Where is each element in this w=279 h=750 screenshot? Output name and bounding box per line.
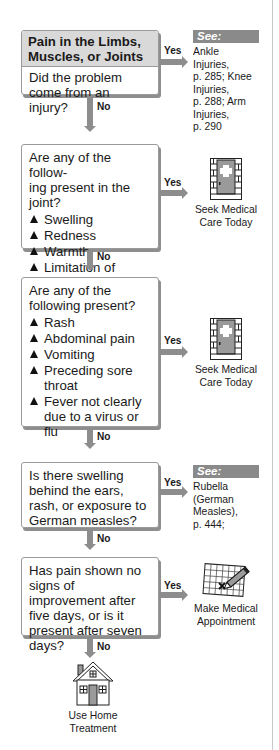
no-connector-4 (87, 529, 93, 545)
triangle-bullet-icon (30, 334, 38, 342)
triangle-bullet-icon (30, 350, 38, 358)
calendar-pencil-icon (200, 561, 252, 599)
no-connector-3 (87, 428, 93, 444)
see-tag: See: (193, 465, 259, 478)
question-line: Are any of the follow- (29, 150, 151, 180)
see-line: Injuries, (193, 83, 249, 96)
triangle-bullet-icon (30, 366, 38, 374)
see-line: p. 444; (193, 518, 249, 531)
see-line: Injuries, (193, 108, 249, 121)
question-text: Is there swelling behind the ears, rash,… (29, 468, 151, 528)
yes-label-2: Yes (164, 176, 181, 188)
symptom-item: Abdominal pain (29, 331, 151, 346)
no-connector-2 (87, 250, 93, 266)
outcome-caption: Treatment (62, 722, 125, 735)
outcome-caption: Use Home (62, 709, 125, 722)
question-box-other-symptoms: Are any of the following present? Rash A… (21, 277, 159, 427)
outcome-caption: Seek Medical (192, 363, 260, 376)
symptom-item: Rash (29, 315, 151, 330)
yes-connector-2 (159, 190, 183, 196)
see-tag: See: (193, 30, 259, 43)
outcome-home-treatment: Use Home Treatment (58, 660, 128, 735)
no-label-2: No (97, 250, 111, 262)
question-line: ing present in the joint? (29, 180, 151, 210)
yes-label-5: Yes (164, 579, 181, 591)
see-line: (German (193, 493, 249, 506)
no-connector-1 (87, 96, 93, 127)
no-label-1: No (97, 100, 111, 112)
outcome-caption: Appointment (190, 615, 262, 628)
yes-connector-4 (159, 489, 183, 495)
see-line: p. 290 (193, 120, 249, 133)
symptom-item: Redness (29, 228, 151, 243)
question-line: following present? (29, 298, 151, 313)
triangle-bullet-icon (30, 231, 38, 239)
outcome-make-appointment: Make Medical Appointment (186, 561, 266, 628)
triangle-bullet-icon (30, 215, 38, 223)
symptom-item: Swelling (29, 212, 151, 227)
symptom-item: Vomiting (29, 347, 151, 362)
outcome-caption: Care Today (192, 216, 260, 229)
no-label-3: No (97, 430, 111, 442)
see-link-knee[interactable]: p. 285; Knee (193, 70, 249, 83)
start-title: Pain in the Limbs, Muscles, or Joints (22, 31, 158, 67)
medical-door-icon (210, 158, 242, 200)
no-label-5: No (97, 640, 111, 652)
question-box-duration: Has pain shown no signs of improvement a… (21, 557, 159, 636)
yes-connector-3 (159, 349, 183, 355)
start-box: Pain in the Limbs, Muscles, or Joints Di… (21, 30, 159, 95)
yes-connector-5 (159, 592, 183, 598)
see-line: Injuries, (193, 58, 249, 71)
yes-label-1: Yes (164, 44, 181, 56)
triangle-bullet-icon (30, 247, 38, 255)
outcome-caption: Care Today (192, 376, 260, 389)
outcome-caption: Make Medical (190, 602, 262, 615)
triangle-bullet-icon (30, 397, 38, 405)
yes-connector-1 (159, 59, 183, 65)
see-link-arm[interactable]: p. 288; Arm (193, 95, 249, 108)
triangle-bullet-icon (30, 318, 38, 326)
outcome-seek-care-1: Seek Medical Care Today (188, 158, 264, 229)
see-line: Measles), (193, 505, 249, 518)
outcome-caption: Seek Medical (192, 203, 260, 216)
no-label-4: No (97, 532, 111, 544)
question-box-joint-symptoms: Are any of the follow- ing present in th… (21, 144, 159, 249)
house-icon (71, 660, 115, 706)
yes-label-3: Yes (164, 334, 181, 346)
symptom-item: Preceding sore throat (29, 363, 151, 393)
yes-label-4: Yes (164, 476, 181, 488)
question-line: Are any of the (29, 283, 151, 298)
see-reference-injuries: See: Ankle Injuries, p. 285; Knee Injuri… (193, 30, 255, 133)
outcome-seek-care-2: Seek Medical Care Today (188, 318, 264, 389)
see-link-rubella[interactable]: Rubella (193, 480, 249, 493)
question-box-measles: Is there swelling behind the ears, rash,… (21, 462, 159, 528)
no-connector-5 (87, 637, 93, 653)
triangle-bullet-icon (30, 263, 38, 271)
see-reference-rubella: See: Rubella (German Measles), p. 444; (193, 465, 255, 530)
see-link-ankle[interactable]: Ankle (193, 45, 249, 58)
medical-door-icon (210, 318, 242, 360)
page-divider-rule (272, 0, 273, 750)
